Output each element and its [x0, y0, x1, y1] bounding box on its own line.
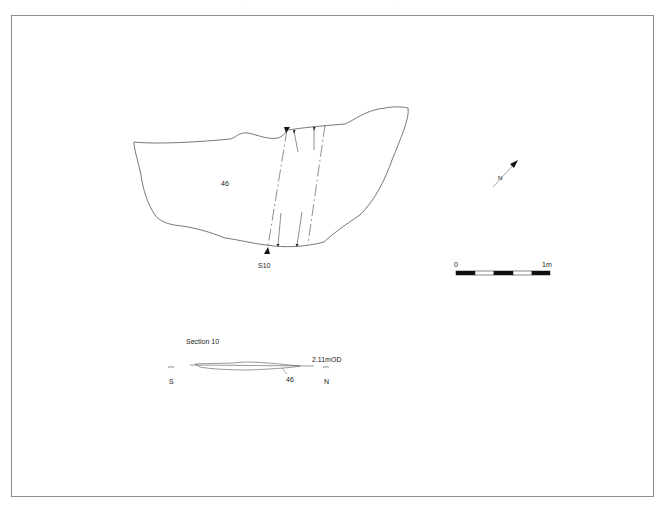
section-title: Section 10 [186, 338, 219, 345]
section-end-left-icon [168, 366, 174, 368]
scale-bar [456, 271, 550, 275]
scale-start-label: 0 [454, 261, 458, 268]
section-left-end-label: S [169, 378, 174, 385]
section-fill-label: 46 [286, 376, 294, 383]
section-marker-bottom-icon [264, 247, 270, 254]
section-fill-leader [282, 368, 287, 374]
section-marker-label: S10 [258, 262, 270, 269]
drawing-canvas [0, 0, 669, 506]
north-label: N [498, 175, 502, 181]
cropped-caption-top-left: · [246, 0, 248, 6]
cropped-caption-top-right: · [392, 0, 394, 6]
plan-feature-label: 46 [221, 180, 229, 187]
hachure-1 [294, 131, 298, 152]
plan-outline [134, 107, 408, 247]
scale-end-label: 1m [542, 261, 552, 268]
hachure-3 [278, 213, 281, 245]
hachure-4 [297, 212, 302, 245]
section-datum-label: 2.11mOD [312, 356, 341, 363]
section-end-right-icon [323, 366, 329, 368]
section-line-right [308, 125, 325, 244]
section-line-left [268, 130, 287, 246]
section-right-end-label: N [324, 378, 329, 385]
